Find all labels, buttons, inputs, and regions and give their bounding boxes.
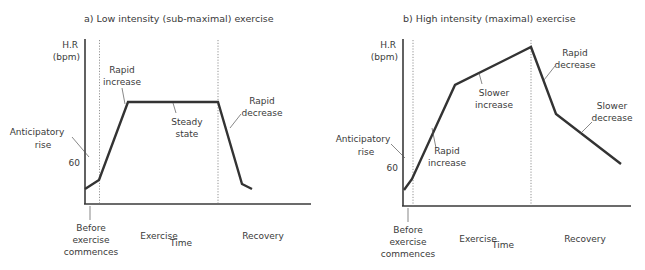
panel-a-low-intensity: a) Low intensity (sub-maximal) exercise … — [10, 13, 311, 257]
panel-a-anticipatory-leader — [72, 137, 89, 157]
panel-a-y-label-2: (bpm) — [53, 52, 80, 62]
panel-b-before-label-3: commences — [381, 249, 436, 259]
panel-b-high-intensity: b) High intensity (maximal) exercise H.R… — [336, 13, 633, 259]
panel-b-y-tick-60: 60 — [387, 163, 399, 173]
panel-a-before-label-2: exercise — [72, 235, 110, 245]
panel-b-y-label-2: (bpm) — [371, 52, 398, 62]
panel-b-rapid-increase-label-2: increase — [428, 158, 466, 168]
panel-b-slower-decrease-label-2: decrease — [592, 113, 633, 123]
panel-a-before-label-1: Before — [76, 223, 106, 233]
panel-a-steady-state-leader — [173, 103, 176, 113]
panel-b-phase-recovery: Recovery — [564, 234, 606, 244]
panel-a-rapid-increase-label-2: increase — [103, 77, 141, 87]
panel-b-before-label-1: Before — [393, 225, 423, 235]
heart-rate-diagrams: a) Low intensity (sub-maximal) exercise … — [0, 0, 645, 270]
panel-b-y-label-1: H.R — [380, 40, 396, 50]
panel-b-slower-increase-leader — [479, 73, 482, 84]
panel-a-before-label-3: commences — [64, 247, 119, 257]
panel-a-rapid-decrease-label-1: Rapid — [249, 96, 275, 106]
panel-a-phase-recovery: Recovery — [242, 231, 284, 241]
panel-a-title: a) Low intensity (sub-maximal) exercise — [84, 13, 274, 24]
panel-b-slower-decrease-leader — [580, 122, 592, 134]
panel-a-rapid-decrease-label-2: decrease — [242, 108, 283, 118]
panel-b-rapid-decrease-leader — [544, 66, 555, 80]
panel-b-slower-decrease-label-1: Slower — [597, 101, 628, 111]
panel-a-steady-state-label-1: Steady — [171, 117, 203, 127]
panel-a-rapid-increase-leader — [122, 88, 125, 104]
panel-b-slower-increase-label-1: Slower — [479, 88, 510, 98]
panel-a-y-tick-60: 60 — [69, 158, 81, 168]
panel-b-anticipatory-label-2: rise — [358, 147, 375, 157]
panel-a-anticipatory-label-1: Anticipatory — [10, 127, 65, 137]
panel-b-rapid-increase-label-1: Rapid — [434, 146, 460, 156]
panel-a-x-label: Time — [169, 238, 192, 248]
panel-a-steady-state-label-2: state — [176, 129, 199, 139]
panel-a-anticipatory-label-2: rise — [35, 140, 52, 150]
panel-a-y-label-1: H.R — [62, 40, 78, 50]
panel-b-anticipatory-label-1: Anticipatory — [336, 134, 391, 144]
panel-b-slower-increase-label-2: increase — [475, 100, 513, 110]
panel-b-x-label: Time — [491, 240, 514, 250]
panel-b-rapid-decrease-label-2: decrease — [555, 60, 596, 70]
panel-b-before-label-2: exercise — [389, 237, 427, 247]
panel-a-rapid-decrease-leader — [230, 114, 241, 128]
panel-b-title: b) High intensity (maximal) exercise — [403, 13, 576, 24]
panel-a-rapid-increase-label-1: Rapid — [109, 65, 135, 75]
panel-a-heart-rate-curve — [85, 102, 252, 189]
panel-b-rapid-decrease-label-1: Rapid — [562, 48, 588, 58]
